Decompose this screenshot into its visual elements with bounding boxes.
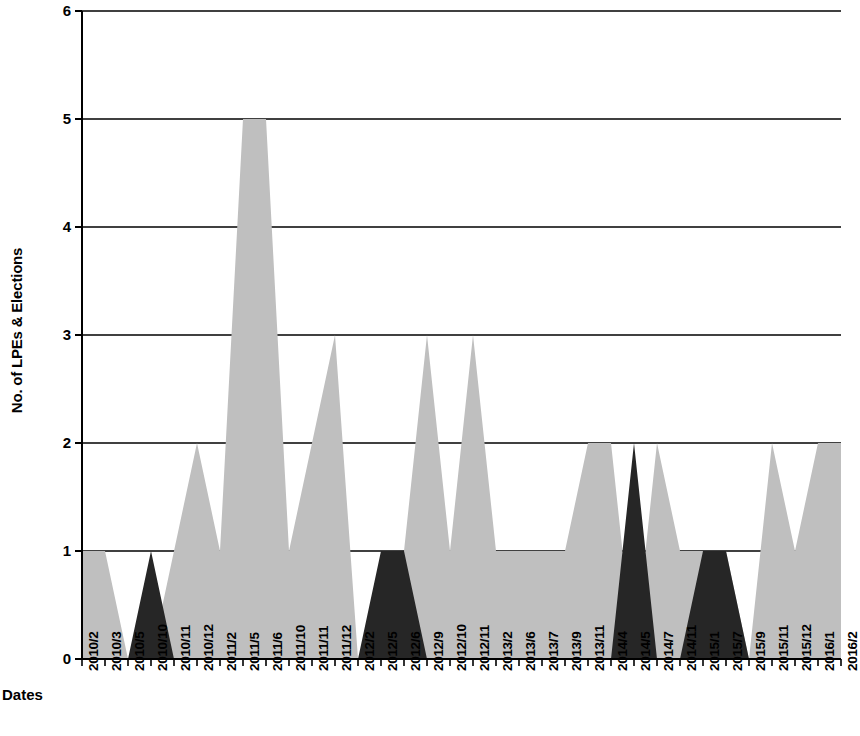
series-areas — [82, 119, 841, 659]
y-axis-ticks — [75, 11, 82, 659]
x-axis-ticks — [82, 659, 841, 666]
